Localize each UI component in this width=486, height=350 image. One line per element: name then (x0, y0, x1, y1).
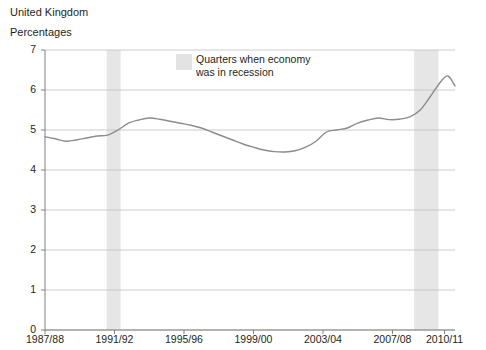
x-tick-label-1995/96: 1995/96 (158, 333, 210, 345)
x-tick-label-2010/11: 2010/11 (419, 333, 471, 345)
legend-label-line2: was in recession (196, 66, 310, 79)
y-tick-marks (41, 50, 45, 330)
axes-group (45, 50, 455, 330)
y-tick-label-4: 4 (14, 163, 36, 175)
legend-swatch-recession (176, 54, 192, 70)
y-tick-label-1: 1 (14, 283, 36, 295)
recession-bands-group (107, 50, 439, 330)
legend-label-line1: Quarters when economy (196, 53, 310, 66)
gridlines-group (45, 50, 455, 330)
series-line-percentage (45, 76, 455, 152)
y-tick-label-5: 5 (14, 123, 36, 135)
y-tick-label-6: 6 (14, 83, 36, 95)
recession-band-2 (414, 50, 438, 330)
y-tick-label-2: 2 (14, 243, 36, 255)
x-tick-label-1987/88: 1987/88 (19, 333, 71, 345)
chart-figure: United Kingdom Percentages Quarters when… (0, 0, 486, 350)
legend-label-recession: Quarters when economy was in recession (196, 53, 310, 79)
x-tick-label-2003/04: 2003/04 (297, 333, 349, 345)
y-tick-label-7: 7 (14, 43, 36, 55)
x-tick-label-1991/92: 1991/92 (88, 333, 140, 345)
x-tick-label-1999/00: 1999/00 (227, 333, 279, 345)
y-tick-label-3: 3 (14, 203, 36, 215)
data-series-group (45, 76, 455, 152)
recession-band-1 (107, 50, 121, 330)
x-tick-label-2007/08: 2007/08 (366, 333, 418, 345)
